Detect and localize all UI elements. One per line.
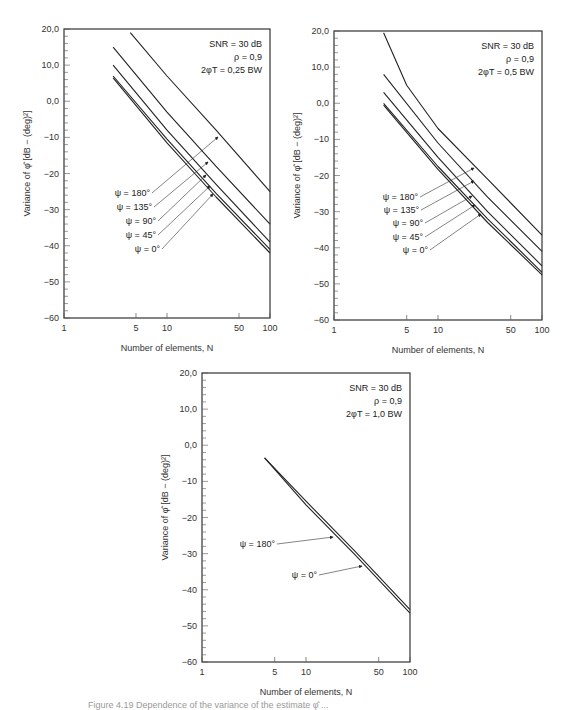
y-tick-label: 0,0 [316,98,329,108]
series-curve [265,458,410,610]
x-tick-label: 5 [272,667,277,677]
annotation-line: SNR = 30 dB [481,41,534,51]
y-tick-label: 0,0 [184,440,197,450]
curve-label: ψ = 135° [117,202,153,212]
y-tick-label: −20 [44,169,59,179]
y-tick-label: −20 [182,513,197,523]
leader-arrow [319,566,362,575]
annotation-line: ρ = 0,9 [234,52,262,62]
y-tick-label: 10,0 [311,62,329,72]
curve-label: ψ = 180° [383,192,419,202]
curve-label: ψ = 45° [126,230,157,240]
y-tick-label: 20,0 [179,368,197,378]
x-tick-label: 50 [374,667,384,677]
figure-caption: Figure 4.19 Dependence of the variance o… [88,700,328,710]
y-tick-label: 10,0 [179,404,197,414]
y-tick-label: −50 [44,277,59,287]
y-axis-title: Variance of φ̂ [dB − (deg)²] [292,113,302,219]
curve-label: ψ = 0° [403,245,429,255]
y-tick-label: −50 [314,279,329,289]
y-axis-title: Variance of φ̂ [dB − (deg)²] [22,111,32,217]
x-tick-label: 100 [262,323,277,333]
y-tick-label: −10 [314,134,329,144]
y-tick-label: −40 [44,241,59,251]
y-tick-label: −10 [44,132,59,142]
chart-panel-bottom: 20,010,00,0−10−20−30−40−50−60151050100Nu… [160,368,418,697]
leader-arrow [158,186,210,235]
y-tick-label: −50 [182,621,197,631]
y-tick-label: 10,0 [41,60,59,70]
y-tick-label: −60 [182,657,197,667]
curve-label: ψ = 180° [240,539,276,549]
annotation-line: ρ = 0,9 [374,396,402,406]
x-tick-label: 10 [433,325,443,335]
curve-label: ψ = 0° [135,244,161,254]
y-tick-label: −20 [314,171,329,181]
y-tick-label: −60 [314,315,329,325]
x-tick-label: 1 [199,667,204,677]
x-axis-title: Number of elements, N [121,343,214,353]
y-tick-label: −30 [182,549,197,559]
curve-label: ψ = 0° [292,570,318,580]
annotation-line: 2φT = 0,5 BW [478,67,534,77]
leader-arrow [425,196,472,223]
x-axis-title: Number of elements, N [260,687,353,697]
x-axis-title: Number of elements, N [392,345,485,355]
annotation-line: 2φT = 1,0 BW [346,409,402,419]
figure-canvas: 20,010,00,0−10−20−30−40−50−60151050100Nu… [0,0,572,710]
x-tick-label: 100 [534,325,549,335]
leader-arrow [420,168,474,197]
curve-label: ψ = 90° [126,216,157,226]
curve-label: ψ = 180° [115,188,151,198]
annotation-line: SNR = 30 dB [349,383,402,393]
x-tick-label: 50 [506,325,516,335]
leader-arrow [162,194,213,249]
curve-label: ψ = 135° [384,205,420,215]
y-tick-label: 20,0 [41,24,59,34]
x-tick-label: 100 [402,667,417,677]
annotation-line: 2φT = 0,25 BW [201,65,262,75]
leader-arrow [277,537,333,544]
y-tick-label: −30 [314,207,329,217]
annotation-line: ρ = 0,9 [506,54,534,64]
x-tick-label: 5 [404,325,409,335]
y-tick-label: 0,0 [46,96,59,106]
y-tick-label: −60 [44,313,59,323]
chart-panel-top-left: 20,010,00,0−10−20−30−40−50−60151050100Nu… [22,24,278,353]
leader-arrow [425,205,475,237]
x-tick-label: 10 [301,667,311,677]
leader-arrow [430,214,481,250]
y-tick-label: −40 [182,585,197,595]
x-tick-label: 1 [331,325,336,335]
curve-label: ψ = 45° [393,232,424,242]
x-tick-label: 10 [162,323,172,333]
y-axis-title: Variance of φ̂ [dB − (deg)²] [160,455,170,561]
annotation-line: SNR = 30 dB [209,39,262,49]
x-tick-label: 1 [61,323,66,333]
y-tick-label: −10 [182,476,197,486]
y-tick-label: −30 [44,205,59,215]
y-tick-label: −40 [314,243,329,253]
x-tick-label: 5 [133,323,138,333]
curve-label: ψ = 90° [393,218,424,228]
x-tick-label: 50 [234,323,244,333]
y-tick-label: 20,0 [311,26,329,36]
chart-panel-top-right: 20,010,00,0−10−20−30−40−50−60151050100Nu… [292,26,550,355]
